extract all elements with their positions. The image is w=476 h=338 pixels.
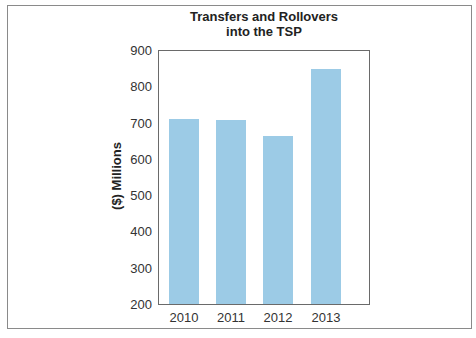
y-tick-label: 200	[130, 297, 152, 312]
chart-title-line-1: Transfers and Rollovers	[158, 9, 370, 24]
bar-2012	[263, 136, 293, 304]
chart-title: Transfers and Rollovers into the TSP	[158, 9, 370, 39]
x-tick-label: 2010	[164, 310, 204, 325]
chart-title-line-2: into the TSP	[158, 24, 370, 39]
y-tick-label: 900	[130, 43, 152, 58]
y-tick-label: 800	[130, 79, 152, 94]
y-axis-label: ($) Millions	[109, 142, 124, 210]
x-tick-label: 2012	[258, 310, 298, 325]
plot-area	[158, 50, 370, 305]
y-tick-label: 600	[130, 151, 152, 166]
bar-2013	[311, 69, 341, 304]
y-tick-label: 700	[130, 115, 152, 130]
y-tick-label: 400	[130, 224, 152, 239]
x-tick-label: 2013	[306, 310, 346, 325]
y-tick-label: 500	[130, 188, 152, 203]
y-tick-label: 300	[130, 260, 152, 275]
x-tick-label: 2011	[211, 310, 251, 325]
bar-2010	[169, 119, 199, 304]
bar-2011	[216, 120, 246, 304]
